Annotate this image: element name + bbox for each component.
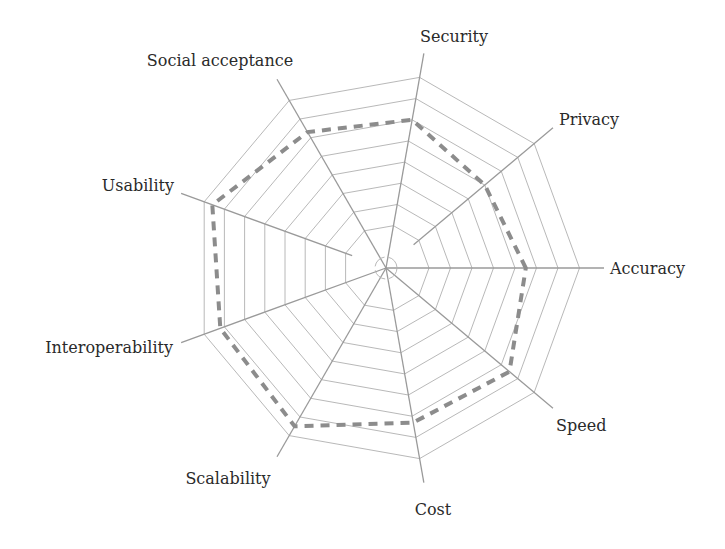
axis-line: [277, 79, 386, 268]
radar-chart: AccuracyPrivacySecuritySocial acceptance…: [0, 0, 725, 549]
axis-line: [181, 268, 386, 343]
axis-labels: AccuracyPrivacySecuritySocial acceptance…: [45, 27, 685, 519]
radar-series: [212, 120, 526, 427]
axis-line: [181, 193, 352, 255]
axis-label-speed: Speed: [556, 416, 606, 435]
axis-line: [386, 268, 553, 408]
axis-label-usability: Usability: [102, 176, 174, 195]
axis-line: [386, 268, 424, 483]
axis-line: [277, 268, 386, 457]
axis-label-security: Security: [420, 27, 488, 46]
axis-label-interoperability: Interoperability: [45, 338, 173, 357]
axis-line: [386, 53, 424, 268]
axis-label-cost: Cost: [415, 500, 452, 519]
axis-label-accuracy: Accuracy: [609, 259, 685, 278]
axis-label-scalability: Scalability: [185, 469, 270, 488]
axis-line: [414, 128, 553, 245]
series-polygon: [212, 120, 526, 427]
axis-label-social-acceptance: Social acceptance: [147, 51, 293, 70]
axis-label-privacy: Privacy: [559, 110, 619, 129]
